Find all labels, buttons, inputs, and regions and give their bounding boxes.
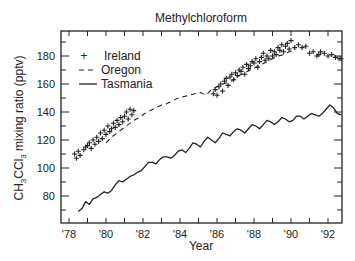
y-axis-label: CH3CCl3 mixing ratio (pptv)	[12, 56, 28, 201]
x-tick-label: '84	[173, 228, 187, 240]
y-tick-label: 120	[37, 134, 55, 146]
legend: + Ireland Oregon Tasmania	[79, 49, 153, 91]
legend-label-ireland: Ireland	[104, 49, 141, 63]
series-tasmania	[78, 105, 341, 211]
y-tick-label: 140	[37, 106, 55, 118]
legend-marker-ireland: +	[80, 49, 87, 63]
plus-marker	[220, 89, 225, 94]
x-tick-label: '88	[247, 228, 261, 240]
plus-marker	[98, 131, 103, 136]
x-tick-label: '90	[284, 228, 298, 240]
y-tick-label: 160	[37, 78, 55, 90]
plus-marker	[100, 136, 105, 141]
plus-marker	[126, 117, 131, 122]
plus-marker	[292, 45, 297, 50]
chart: Methylchloroform '78'80'82'84'86'88'90'9…	[0, 0, 355, 261]
plus-marker	[105, 124, 110, 129]
plus-marker	[242, 72, 247, 77]
legend-label-oregon: Oregon	[101, 63, 141, 77]
y-tick-label: 100	[37, 162, 55, 174]
plus-marker	[289, 38, 294, 43]
plus-marker	[296, 42, 301, 47]
y-tick-label: 80	[43, 190, 55, 202]
y-tick-label: 180	[37, 50, 55, 62]
x-tick-label: '82	[136, 228, 150, 240]
x-tick-label: '78	[62, 228, 76, 240]
x-axis-label: Year	[189, 239, 213, 253]
chart-title: Methylchloroform	[155, 11, 247, 25]
plus-marker	[226, 83, 231, 88]
plus-marker	[89, 146, 94, 151]
x-tick-label: '92	[321, 228, 335, 240]
x-tick-label: '80	[99, 228, 113, 240]
legend-label-tasmania: Tasmania	[101, 77, 153, 91]
